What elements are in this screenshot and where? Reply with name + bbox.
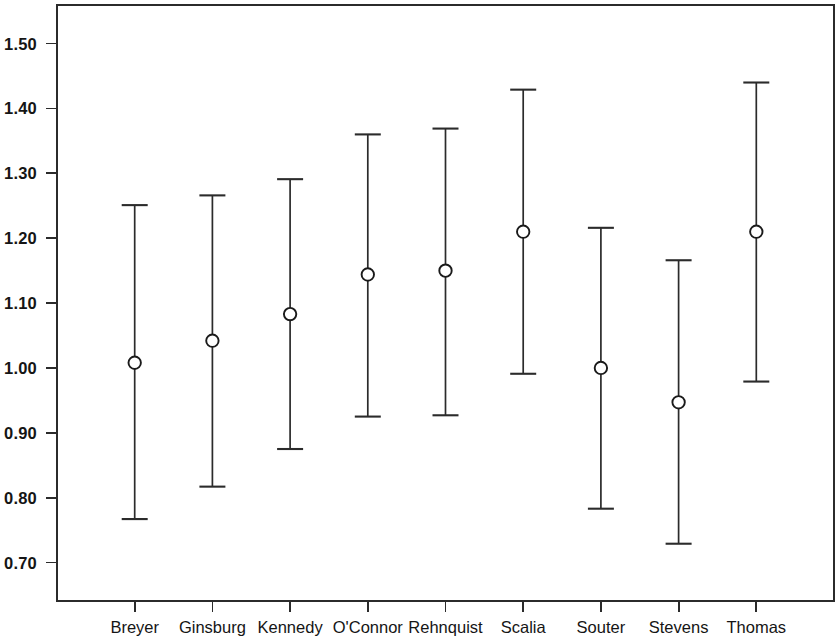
y-tick-label: 1.00	[4, 359, 37, 377]
x-tick-label-scalia: Scalia	[501, 618, 547, 636]
error-bar-thomas	[743, 83, 769, 382]
y-tick-label: 1.10	[4, 294, 37, 312]
y-axis-ticks	[46, 44, 57, 563]
x-axis-tick-labels: BreyerGinsburgKennedyO'ConnorRehnquistSc…	[110, 618, 786, 636]
error-bar-breyer	[122, 205, 148, 519]
x-tick-label-stevens: Stevens	[649, 618, 709, 636]
y-tick-label: 1.30	[4, 164, 37, 182]
data-point-marker	[595, 362, 607, 374]
x-tick-label-kennedy: Kennedy	[258, 618, 324, 636]
y-axis-tick-labels: 0.700.800.901.001.101.201.301.401.50	[4, 35, 37, 572]
data-point-marker	[129, 357, 141, 369]
error-bar-series	[122, 83, 770, 544]
y-tick-label: 0.70	[4, 554, 37, 572]
x-tick-label-oconnor: O'Connor	[333, 618, 404, 636]
data-point-marker	[439, 264, 451, 276]
error-bar-rehnquist	[433, 129, 459, 416]
data-point-marker	[206, 334, 218, 346]
error-bar-oconnor	[355, 134, 381, 416]
y-tick-label: 1.20	[4, 229, 37, 247]
x-tick-label-ginsburg: Ginsburg	[179, 618, 246, 636]
data-point-marker	[750, 226, 762, 238]
error-bar-stevens	[666, 260, 692, 543]
data-point-marker	[672, 396, 684, 408]
x-axis-ticks	[135, 601, 757, 612]
chart-canvas: 0.700.800.901.001.101.201.301.401.50 Bre…	[0, 0, 839, 636]
y-tick-label: 1.50	[4, 35, 37, 53]
x-tick-label-breyer: Breyer	[110, 618, 159, 636]
error-bar-kennedy	[277, 179, 303, 449]
error-bar-chart: 0.700.800.901.001.101.201.301.401.50 Bre…	[0, 0, 839, 636]
data-point-marker	[284, 308, 296, 320]
y-tick-label: 1.40	[4, 99, 37, 117]
error-bar-souter	[588, 228, 614, 509]
x-tick-label-souter: Souter	[577, 618, 626, 636]
error-bar-scalia	[510, 90, 536, 374]
x-tick-label-rehnquist: Rehnquist	[408, 618, 483, 636]
x-tick-label-thomas: Thomas	[726, 618, 786, 636]
y-tick-label: 0.90	[4, 424, 37, 442]
y-tick-label: 0.80	[4, 489, 37, 507]
error-bar-ginsburg	[199, 195, 225, 486]
data-point-marker	[362, 268, 374, 280]
data-point-marker	[517, 226, 529, 238]
